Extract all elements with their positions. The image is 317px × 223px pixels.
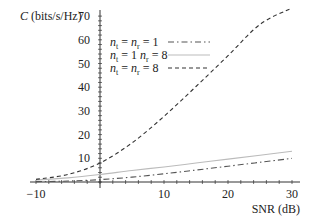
axes: 10203040506070 −10102030 bbox=[27, 9, 300, 201]
capacity-chart: 10203040506070 −10102030 C (bits/s/Hz) S… bbox=[0, 0, 317, 223]
y-tick-label: 20 bbox=[78, 128, 90, 142]
y-tick-label: 10 bbox=[78, 151, 90, 165]
series-line bbox=[36, 151, 292, 180]
legend-label: nt = nr = 8 bbox=[110, 61, 158, 77]
y-axis-title: C (bits/s/Hz) bbox=[20, 9, 82, 23]
series-line bbox=[36, 158, 292, 181]
y-tick-label: 40 bbox=[78, 80, 90, 94]
y-tick-label: 50 bbox=[78, 57, 90, 71]
y-tick-label: 30 bbox=[78, 104, 90, 118]
y-tick-label: 60 bbox=[78, 33, 90, 47]
x-tick-label: −10 bbox=[27, 187, 46, 201]
plot-area bbox=[36, 8, 292, 182]
x-tick-label: 10 bbox=[158, 187, 170, 201]
x-axis-title: SNR (dB) bbox=[252, 202, 300, 216]
series-line bbox=[36, 8, 292, 179]
y-tick-labels: 10203040506070 bbox=[78, 9, 90, 165]
x-tick-label: 20 bbox=[222, 187, 234, 201]
x-tick-label: 30 bbox=[286, 187, 298, 201]
x-minor-ticks bbox=[36, 180, 292, 184]
x-tick-labels: −10102030 bbox=[27, 187, 298, 201]
legend: nt = nr = 1nt = 1 nr = 8nt = nr = 8 bbox=[110, 35, 210, 77]
